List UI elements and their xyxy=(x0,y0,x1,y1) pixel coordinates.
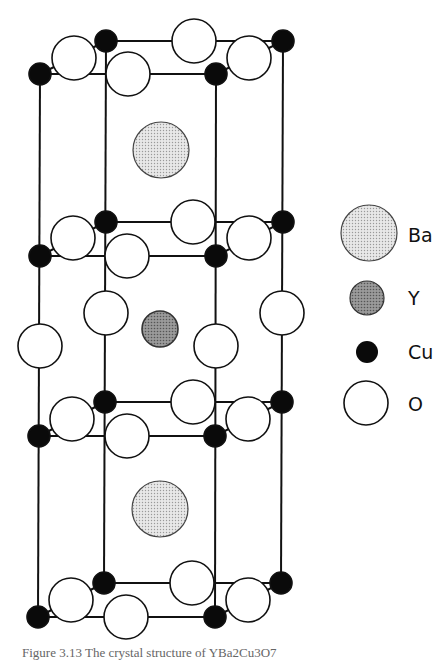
cu-atom xyxy=(29,245,51,267)
o-atom xyxy=(52,36,96,80)
cu-atom xyxy=(272,30,294,52)
o-atom xyxy=(51,216,95,260)
cu-atom xyxy=(29,63,51,85)
legend-cu-swatch xyxy=(356,341,378,363)
legend-label-y: Y xyxy=(407,287,420,309)
cu-o-layer-top xyxy=(29,19,294,96)
figure-caption: Figure 3.13 The crystal structure of YBa… xyxy=(22,645,277,661)
legend-label-cu: Cu xyxy=(408,341,433,363)
o-atom xyxy=(106,52,150,96)
o-atom xyxy=(227,216,271,260)
cu-o-layer-bottom xyxy=(27,561,292,639)
o-atom xyxy=(50,397,94,441)
cu-atom xyxy=(95,30,117,52)
y-atom xyxy=(142,311,178,347)
cu-atom xyxy=(272,211,294,233)
cu-atom xyxy=(270,572,292,594)
ba-atom-upper xyxy=(133,122,189,178)
middle-layer xyxy=(18,291,304,368)
o-atom xyxy=(194,324,238,368)
o-atom xyxy=(105,414,149,458)
o-atom xyxy=(84,291,128,335)
o-atom xyxy=(49,578,93,622)
cu-atom xyxy=(204,425,226,447)
o-atom xyxy=(172,19,216,63)
o-atom xyxy=(18,324,62,368)
cu-atom xyxy=(205,63,227,85)
legend-label-ba: Ba xyxy=(408,224,433,246)
cu-o-layer-2 xyxy=(29,200,294,278)
o-atom xyxy=(226,578,270,622)
o-atom xyxy=(171,200,215,244)
o-atom xyxy=(260,291,304,335)
cu-o-layer-3 xyxy=(28,380,293,458)
o-atom xyxy=(171,380,215,424)
o-atom xyxy=(227,36,271,80)
cu-atom xyxy=(27,606,49,628)
legend-y-swatch xyxy=(350,281,384,315)
o-atom xyxy=(105,234,149,278)
cu-atom xyxy=(204,606,226,628)
legend-ba-swatch xyxy=(341,205,397,261)
o-atom xyxy=(104,595,148,639)
cu-atom xyxy=(28,425,50,447)
cu-atom xyxy=(271,391,293,413)
ba-atom-lower xyxy=(132,481,188,537)
cu-atom xyxy=(95,211,117,233)
cu-atom xyxy=(93,572,115,594)
o-atom xyxy=(170,561,214,605)
o-atom xyxy=(226,397,270,441)
legend-o-swatch xyxy=(344,381,388,425)
cu-atom xyxy=(205,245,227,267)
legend: Ba Y Cu O xyxy=(341,205,433,425)
legend-label-o: O xyxy=(408,393,423,415)
cu-atom xyxy=(94,391,116,413)
